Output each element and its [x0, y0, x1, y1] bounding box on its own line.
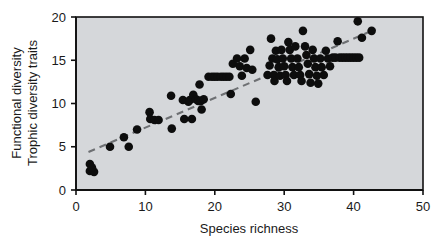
data-point [314, 79, 323, 88]
data-point [188, 115, 197, 124]
data-point [154, 116, 163, 125]
data-point [294, 63, 303, 72]
data-point [120, 133, 129, 142]
data-point [124, 142, 133, 151]
y-axis-tick-label: 15 [52, 53, 66, 68]
x-axis-tick-label: 0 [72, 199, 79, 214]
data-point [180, 115, 189, 124]
data-point [308, 46, 317, 55]
data-point [226, 90, 235, 99]
x-axis-tick-label: 10 [138, 199, 152, 214]
data-point [238, 72, 247, 81]
data-point [358, 33, 367, 42]
data-point [333, 37, 342, 46]
data-point [367, 27, 376, 36]
scatter-plot-figure: 01020304050 05101520 Species richness Fu… [0, 0, 436, 249]
x-axis-title: Species richness [200, 221, 299, 236]
data-point [355, 53, 364, 62]
data-point [106, 142, 115, 151]
data-point [225, 72, 234, 81]
data-point [240, 54, 249, 63]
y-axis-tick-label: 10 [52, 96, 66, 111]
data-point [199, 95, 208, 104]
x-axis-tick-label: 30 [277, 199, 291, 214]
y-axis-title-line1: Functional diversity [9, 47, 24, 159]
x-axis-tick-label: 50 [416, 199, 430, 214]
chart-canvas: 01020304050 05101520 Species richness Fu… [0, 0, 436, 249]
y-axis-tick-label: 20 [52, 10, 66, 25]
data-point [301, 42, 310, 51]
data-point [233, 54, 242, 63]
data-point [306, 78, 315, 87]
data-point [197, 105, 206, 114]
data-point [88, 163, 97, 172]
data-point [283, 77, 292, 86]
data-point [267, 34, 276, 43]
data-point [195, 80, 204, 89]
data-point [280, 62, 289, 71]
y-axis-tick-label: 0 [59, 183, 66, 198]
data-point [322, 46, 331, 55]
data-point [248, 65, 257, 74]
data-point [279, 54, 288, 63]
data-point [297, 77, 306, 86]
data-point [251, 97, 260, 106]
data-point [316, 54, 325, 63]
y-axis-tick-label: 5 [59, 139, 66, 154]
data-point [167, 91, 176, 100]
data-point [246, 46, 255, 55]
data-point [299, 27, 308, 36]
data-point [317, 63, 326, 72]
x-axis-tick-label: 40 [346, 199, 360, 214]
y-axis-title-line2: Trophic diversity traits [25, 40, 40, 166]
data-point [305, 70, 314, 79]
data-point [353, 17, 362, 26]
data-point [167, 124, 176, 133]
data-point [277, 46, 286, 55]
plot-area-background [76, 17, 423, 190]
data-point [293, 54, 302, 63]
x-axis-tick-label: 20 [208, 199, 222, 214]
data-point [133, 125, 142, 134]
data-point [291, 42, 300, 51]
data-point [319, 71, 328, 80]
data-point [326, 62, 335, 71]
